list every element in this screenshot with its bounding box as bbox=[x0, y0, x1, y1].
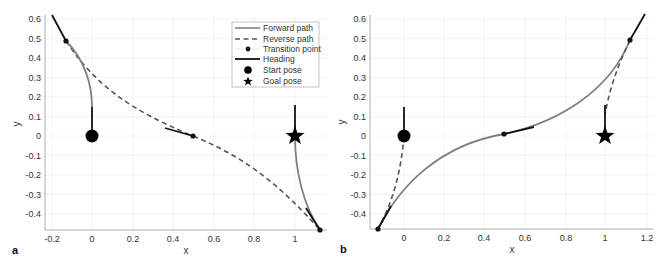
svg-text:Goal pose: Goal pose bbox=[263, 76, 302, 86]
x-axis-label-b: x bbox=[510, 244, 515, 255]
svg-text:-0.2: -0.2 bbox=[350, 170, 366, 180]
x-ticks-b: 0 0.2 0.4 0.6 0.8 1 1.2 bbox=[401, 233, 653, 243]
svg-text:-0.1: -0.1 bbox=[350, 151, 366, 161]
legend-start-icon bbox=[244, 66, 252, 74]
axes-b bbox=[370, 15, 654, 229]
svg-text:0.4: 0.4 bbox=[167, 234, 180, 244]
start-pose-b bbox=[398, 130, 411, 143]
y-ticks-b: 0.6 0.5 0.4 0.3 0.2 0.1 0 -0.1 -0.2 -0.3… bbox=[350, 14, 366, 219]
svg-text:Forward path: Forward path bbox=[263, 23, 313, 33]
svg-text:0.6: 0.6 bbox=[28, 14, 41, 24]
svg-text:0.4: 0.4 bbox=[478, 233, 491, 243]
svg-text:0: 0 bbox=[36, 131, 41, 141]
svg-text:-0.1: -0.1 bbox=[25, 151, 41, 161]
panel-label-b: b bbox=[340, 243, 347, 255]
y-axis-label-a: y bbox=[11, 122, 22, 127]
svg-text:Reverse path: Reverse path bbox=[263, 34, 314, 44]
svg-text:0.8: 0.8 bbox=[560, 233, 573, 243]
svg-text:-0.4: -0.4 bbox=[25, 209, 41, 219]
svg-text:0.2: 0.2 bbox=[438, 233, 451, 243]
svg-text:0.8: 0.8 bbox=[248, 234, 261, 244]
svg-text:0.4: 0.4 bbox=[28, 53, 41, 63]
legend: Forward path Reverse path Transition poi… bbox=[232, 22, 321, 87]
svg-text:Transition point: Transition point bbox=[263, 44, 321, 54]
panel-a: 0.6 0.5 0.4 0.3 0.2 0.1 0 -0.1 -0.2 -0.3… bbox=[11, 14, 327, 256]
svg-text:0.6: 0.6 bbox=[519, 233, 532, 243]
svg-text:0.2: 0.2 bbox=[353, 92, 366, 102]
transition-points-b bbox=[375, 37, 632, 231]
panel-label-a: a bbox=[12, 244, 19, 256]
svg-text:0.2: 0.2 bbox=[127, 234, 140, 244]
svg-text:0: 0 bbox=[361, 131, 366, 141]
y-ticks-a: 0.6 0.5 0.4 0.3 0.2 0.1 0 -0.1 -0.2 -0.3… bbox=[25, 14, 41, 219]
svg-text:Heading: Heading bbox=[263, 54, 295, 64]
svg-text:0: 0 bbox=[401, 233, 406, 243]
svg-text:0.6: 0.6 bbox=[353, 14, 366, 24]
svg-text:Start pose: Start pose bbox=[263, 65, 302, 75]
panel-b: 0.6 0.5 0.4 0.3 0.2 0.1 0 -0.1 -0.2 -0.3… bbox=[336, 14, 654, 255]
svg-text:-0.3: -0.3 bbox=[25, 190, 41, 200]
svg-text:0.5: 0.5 bbox=[353, 34, 366, 44]
svg-text:-0.3: -0.3 bbox=[350, 190, 366, 200]
svg-text:-0.2: -0.2 bbox=[25, 170, 41, 180]
svg-text:-0.2: -0.2 bbox=[44, 234, 60, 244]
reverse-path-b-start bbox=[378, 136, 404, 229]
grid-b bbox=[370, 17, 654, 229]
svg-text:-0.4: -0.4 bbox=[350, 209, 366, 219]
svg-text:0.2: 0.2 bbox=[28, 92, 41, 102]
svg-text:0.1: 0.1 bbox=[28, 112, 41, 122]
svg-text:0.3: 0.3 bbox=[28, 73, 41, 83]
svg-text:0.5: 0.5 bbox=[28, 34, 41, 44]
y-axis-label-b: y bbox=[336, 120, 347, 125]
svg-text:0: 0 bbox=[89, 234, 94, 244]
svg-text:0.3: 0.3 bbox=[353, 73, 366, 83]
x-ticks-a: -0.2 0 0.2 0.4 0.6 0.8 1 bbox=[44, 234, 297, 244]
start-pose-a bbox=[86, 130, 99, 143]
svg-text:0.4: 0.4 bbox=[353, 53, 366, 63]
svg-text:0.6: 0.6 bbox=[208, 234, 221, 244]
svg-text:1.2: 1.2 bbox=[641, 233, 654, 243]
svg-text:0.1: 0.1 bbox=[353, 112, 366, 122]
svg-text:1: 1 bbox=[602, 233, 607, 243]
svg-text:1: 1 bbox=[292, 234, 297, 244]
figure: 0.6 0.5 0.4 0.3 0.2 0.1 0 -0.1 -0.2 -0.3… bbox=[0, 0, 671, 267]
x-axis-label-a: x bbox=[184, 245, 189, 256]
